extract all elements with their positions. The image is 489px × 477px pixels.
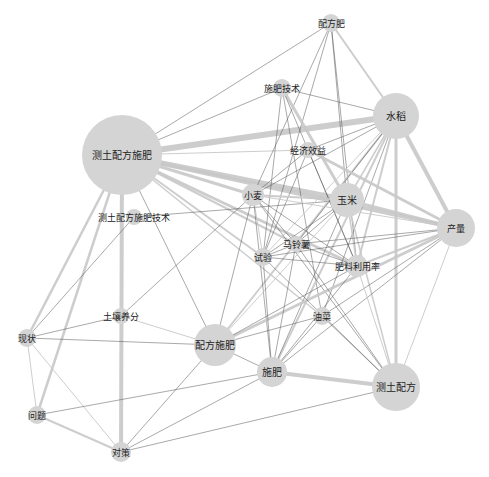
node-chanliang: 产量 [437, 209, 475, 247]
edge [37, 415, 121, 452]
edge [357, 116, 396, 266]
node-label: 试验 [254, 252, 272, 263]
node-label: 马铃薯 [283, 239, 310, 250]
node-shifei_jishu: 施肥技术 [264, 79, 300, 97]
node-cetu_peifang: 测土配方 [372, 363, 420, 411]
node-shifei: 施肥 [257, 357, 287, 387]
keyword-network-diagram: 测土配方施肥配方肥施肥技术水稻经济效益小麦玉米产量测土配方施肥技术马铃薯试验肥料… [0, 0, 489, 477]
edge [121, 387, 396, 452]
node-label: 问题 [28, 410, 46, 421]
node-label: 油菜 [313, 311, 331, 322]
node-label: 经济效益 [290, 145, 326, 156]
node-shiyan: 试验 [254, 248, 272, 266]
node-cetu_peifang_shifei: 测土配方施肥 [82, 115, 162, 195]
node-turang_yangfen: 土壤养分 [103, 308, 139, 324]
edge [27, 338, 37, 415]
node-xiaomai: 小麦 [242, 184, 264, 206]
node-label: 土壤养分 [103, 311, 139, 322]
edge [215, 266, 357, 345]
edge [331, 23, 347, 200]
node-label: 配方施肥 [195, 339, 235, 351]
node-label: 配方肥 [318, 18, 345, 29]
node-label: 测土配方 [376, 381, 416, 393]
node-xianzhuang: 现状 [18, 329, 36, 347]
edge [27, 338, 121, 452]
node-label: 施肥技术 [264, 83, 300, 94]
edge [37, 155, 122, 415]
node-youcai: 油菜 [313, 307, 331, 325]
node-peifang_shifei: 配方施肥 [194, 324, 236, 366]
edge [121, 155, 122, 452]
node-label: 水稻 [386, 111, 406, 122]
node-label: 肥料利用率 [335, 261, 380, 272]
node-label: 测土配方施肥 [92, 149, 152, 161]
node-label: 施肥 [262, 366, 282, 378]
node-label: 测土配方施肥技术 [98, 212, 170, 223]
edge [253, 23, 331, 195]
edge [347, 200, 396, 387]
edge [121, 372, 272, 452]
node-label: 小麦 [244, 190, 262, 201]
node-label: 现状 [18, 333, 36, 344]
node-yumi: 玉米 [330, 183, 364, 217]
node-duice: 对策 [111, 442, 131, 462]
edge [121, 345, 215, 452]
node-layer: 测土配方施肥配方肥施肥技术水稻经济效益小麦玉米产量测土配方施肥技术马铃薯试验肥料… [18, 14, 475, 462]
edge [322, 228, 456, 316]
edge [122, 116, 396, 155]
node-label: 产量 [447, 223, 465, 234]
node-label: 玉米 [337, 194, 357, 206]
node-wenti: 问题 [28, 406, 46, 424]
node-cetu_jishu: 测土配方施肥技术 [98, 209, 170, 225]
node-shuidao: 水稻 [373, 93, 419, 139]
node-label: 对策 [112, 447, 130, 458]
